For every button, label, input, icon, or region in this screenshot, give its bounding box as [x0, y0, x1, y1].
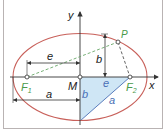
triangle-b-label: b — [82, 88, 88, 100]
focus-2-label: F2 — [126, 81, 137, 94]
focal-radius-1 — [27, 42, 118, 77]
y-axis-label: y — [67, 9, 75, 21]
dimension-a-label: a — [46, 88, 52, 100]
center-label: M — [68, 80, 78, 92]
center-point — [78, 75, 82, 79]
focus-1-point — [25, 75, 29, 79]
dimension-e-label: e — [47, 50, 53, 62]
point-p — [116, 40, 120, 44]
x-axis-label: x — [148, 79, 155, 91]
triangle-e-label: e — [103, 77, 109, 89]
focus-2-point — [128, 75, 132, 79]
triangle-a-label: a — [109, 94, 115, 106]
focus-1-label: F1 — [21, 81, 32, 94]
dimension-b-label: b — [96, 53, 102, 65]
ellipse-diagram: y x M P F1 F2 e a b b e a — [0, 0, 167, 133]
point-p-label: P — [121, 29, 128, 40]
